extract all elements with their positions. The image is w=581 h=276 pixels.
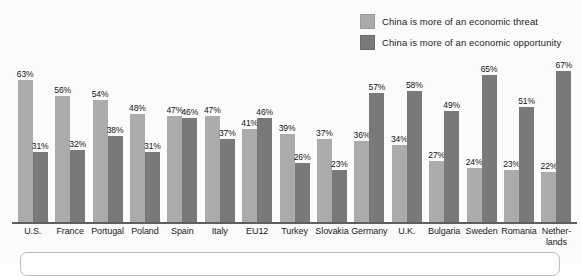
bar-slot: 65% <box>482 64 497 222</box>
bar: 23% <box>504 170 519 222</box>
bar-slot: 24% <box>467 64 482 222</box>
bar: 31% <box>145 152 160 222</box>
bar: 48% <box>130 114 145 222</box>
bar: 46% <box>257 118 272 222</box>
bar-value-label: 49% <box>443 100 460 110</box>
bar: 58% <box>407 91 422 222</box>
bar-group: 36%57% <box>351 64 388 222</box>
bar-group: 56%32% <box>51 64 88 222</box>
plot-area: 63%31%56%32%54%38%48%31%47%46%47%37%41%4… <box>14 64 575 222</box>
bar: 65% <box>482 75 497 222</box>
bar-slot: 63% <box>18 64 33 222</box>
bar: 27% <box>429 161 444 222</box>
legend-label-threat: China is more of an economic threat <box>382 16 538 27</box>
bar: 36% <box>354 141 369 222</box>
x-axis-labels: U.S.FrancePortugalPolandSpainItalyEU12Tu… <box>14 226 575 247</box>
axis-label-4: Spain <box>164 226 201 247</box>
bar-value-label: 56% <box>54 85 71 95</box>
axis-label-line1: Italy <box>212 226 228 236</box>
bar-slot: 27% <box>429 64 444 222</box>
bar-value-label: 31% <box>32 141 49 151</box>
bar-value-label: 22% <box>541 161 558 171</box>
axis-label-line1: EU12 <box>246 226 268 236</box>
bar-group: 39%26% <box>276 64 313 222</box>
bar-value-label: 32% <box>69 139 86 149</box>
bar-value-label: 27% <box>428 150 445 160</box>
axis-label-line1: Portugal <box>91 226 124 236</box>
bar-value-label: 54% <box>92 89 109 99</box>
bar: 54% <box>93 100 108 222</box>
bar-value-label: 36% <box>354 130 371 140</box>
legend-swatch-threat <box>360 14 375 29</box>
axis-label-1: France <box>51 226 88 247</box>
bar-slot: 37% <box>220 64 235 222</box>
bar-slot: 37% <box>317 64 332 222</box>
axis-label-3: Poland <box>126 226 163 247</box>
bar-groups: 63%31%56%32%54%38%48%31%47%46%47%37%41%4… <box>14 64 575 222</box>
bar: 24% <box>467 168 482 222</box>
bar-value-label: 47% <box>204 105 221 115</box>
bar: 67% <box>556 71 571 222</box>
bar: 51% <box>519 107 534 222</box>
bar: 22% <box>541 172 556 222</box>
bar: 38% <box>108 136 123 222</box>
bar-slot: 47% <box>205 64 220 222</box>
bar-value-label: 63% <box>17 69 34 79</box>
bottom-panel <box>20 252 560 276</box>
bar-group: 34%58% <box>388 64 425 222</box>
axis-label-line2: lands <box>538 237 575 248</box>
axis-label-line1: Spain <box>171 226 194 236</box>
bar-slot: 67% <box>556 64 571 222</box>
bar-value-label: 46% <box>181 107 198 117</box>
bar-value-label: 58% <box>406 80 423 90</box>
axis-label-line1: Sweden <box>466 226 498 236</box>
bar-value-label: 51% <box>518 96 535 106</box>
legend-item-opportunity: China is more of an economic opportunity <box>360 35 561 50</box>
axis-label-line1: Poland <box>131 226 158 236</box>
bar-slot: 23% <box>332 64 347 222</box>
bar-slot: 36% <box>354 64 369 222</box>
bar-value-label: 31% <box>144 141 161 151</box>
bar: 34% <box>392 145 407 222</box>
axis-label-13: Romania <box>500 226 537 247</box>
bar-group: 47%46% <box>164 64 201 222</box>
bar-group: 47%37% <box>201 64 238 222</box>
bar-group: 37%23% <box>313 64 350 222</box>
bar-slot: 54% <box>93 64 108 222</box>
bar-value-label: 65% <box>481 64 498 74</box>
bar-slot: 47% <box>167 64 182 222</box>
axis-label-line1: U.S. <box>24 226 41 236</box>
bar: 37% <box>220 139 235 223</box>
bar: 23% <box>332 170 347 222</box>
bar: 37% <box>317 139 332 223</box>
bar: 47% <box>205 116 220 222</box>
bar-value-label: 38% <box>107 125 124 135</box>
bar-slot: 51% <box>519 64 534 222</box>
bar-slot: 57% <box>369 64 384 222</box>
bar: 63% <box>18 80 33 222</box>
bar-slot: 49% <box>444 64 459 222</box>
bar-value-label: 39% <box>279 123 296 133</box>
bar: 46% <box>182 118 197 222</box>
bar-slot: 58% <box>407 64 422 222</box>
bar-slot: 31% <box>145 64 160 222</box>
axis-label-12: Sweden <box>463 226 500 247</box>
bar-group: 63%31% <box>14 64 51 222</box>
bar-slot: 26% <box>295 64 310 222</box>
axis-label-11: Bulgaria <box>425 226 462 247</box>
legend-item-threat: China is more of an economic threat <box>360 14 561 29</box>
bar-value-label: 67% <box>556 60 573 70</box>
axis-label-2: Portugal <box>89 226 126 247</box>
axis-label-line1: Slovakia <box>315 226 348 236</box>
bar-slot: 39% <box>280 64 295 222</box>
bar-value-label: 23% <box>503 159 520 169</box>
bar: 56% <box>55 96 70 222</box>
bar-slot: 48% <box>130 64 145 222</box>
bar: 39% <box>280 134 295 222</box>
axis-label-line1: Romania <box>501 226 536 236</box>
bar-group: 23%51% <box>500 64 537 222</box>
bar-group: 54%38% <box>89 64 126 222</box>
bar-group: 41%46% <box>238 64 275 222</box>
bar-slot: 23% <box>504 64 519 222</box>
